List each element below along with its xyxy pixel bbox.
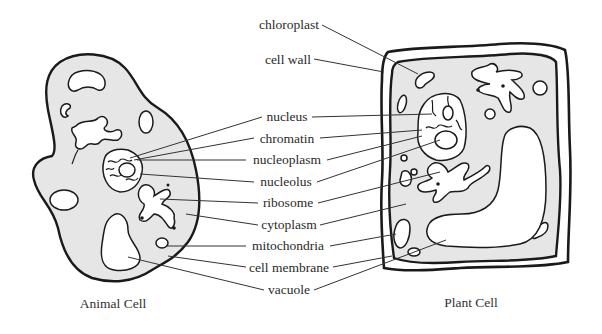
animal-ribosome xyxy=(140,216,144,220)
plant-vesicle-2 xyxy=(485,109,495,119)
animal-ribosome-2 xyxy=(172,226,176,230)
label-cell-membrane: cell membrane xyxy=(249,260,329,275)
label-ribosome: ribosome xyxy=(263,195,313,210)
animal-ribosome-3 xyxy=(167,184,170,187)
caption-animal-cell: Animal Cell xyxy=(80,296,147,311)
cell-diagram: chloroplast cell wall nucleus chromatin … xyxy=(0,0,602,334)
label-cytoplasm: cytoplasm xyxy=(261,217,317,232)
plant-nucleolus-upper xyxy=(443,106,453,120)
animal-cell xyxy=(33,54,199,281)
label-chromatin: chromatin xyxy=(260,131,315,146)
plant-nucleus xyxy=(418,94,466,161)
label-cell-wall: cell wall xyxy=(265,52,311,67)
plant-ribosome-2 xyxy=(501,84,505,88)
label-mitochondria: mitochondria xyxy=(252,238,324,253)
label-vacuole: vacuole xyxy=(268,282,310,297)
plant-ribosome-1 xyxy=(476,88,480,92)
animal-nucleolus xyxy=(119,163,135,177)
plant-nucleolus xyxy=(435,131,457,149)
label-nucleolus: nucleolus xyxy=(260,174,312,189)
label-nucleoplasm: nucleoplasm xyxy=(253,152,322,167)
plant-ribosome-3 xyxy=(436,182,440,186)
caption-plant-cell: Plant Cell xyxy=(444,295,498,310)
plant-vesicle-1 xyxy=(533,81,547,95)
plant-cell xyxy=(381,43,570,270)
plant-vesicle-3 xyxy=(401,155,407,161)
label-chloroplast: chloroplast xyxy=(259,17,319,32)
labels: chloroplast cell wall nucleus chromatin … xyxy=(249,17,329,297)
animal-vesicle-left xyxy=(50,190,78,210)
plant-vesicle-4 xyxy=(400,171,411,186)
animal-vesicle-oval xyxy=(139,111,153,133)
label-nucleus: nucleus xyxy=(266,109,307,124)
plant-vesicle-5 xyxy=(411,169,417,175)
